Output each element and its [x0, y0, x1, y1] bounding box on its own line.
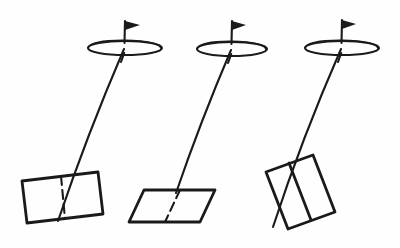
assembly-3	[266, 20, 379, 229]
cord-line-1	[58, 49, 124, 221]
plate-divider-2	[165, 190, 180, 222]
figure-canvas: Three pendulum-canopy diagrams	[0, 0, 400, 248]
flag-pennant-3	[342, 20, 356, 29]
flag-pennant-2	[232, 21, 246, 30]
assembly-2	[129, 21, 267, 222]
plate-divider-3	[289, 163, 311, 220]
diagram-svg	[0, 0, 400, 248]
cord-line-2	[176, 50, 231, 193]
assembly-1	[22, 21, 162, 223]
flag-pennant-1	[125, 21, 140, 30]
